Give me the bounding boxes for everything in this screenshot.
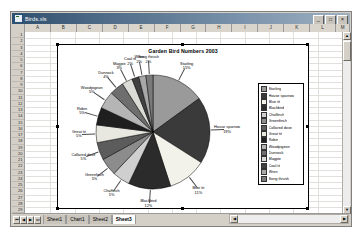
slice-label-value: 4%: [98, 75, 113, 80]
column-header-a[interactable]: A: [25, 24, 51, 32]
slice-label-value: 5%: [85, 177, 104, 182]
legend-label: Coal tit: [269, 164, 281, 168]
column-header-m[interactable]: M: [336, 24, 350, 32]
legend-swatch: [261, 137, 267, 143]
slice-label-starling: Starling15%: [180, 62, 193, 71]
column-header-f[interactable]: F: [155, 24, 181, 32]
sheet-tab-sheet2[interactable]: Sheet2: [89, 215, 112, 224]
legend-swatch: [261, 156, 267, 162]
slice-label-great-tit: Great tit5%: [72, 130, 86, 139]
first-sheet-button[interactable]: ⏮: [13, 216, 20, 224]
close-button[interactable]: ×: [337, 15, 348, 25]
legend-swatch: [261, 176, 267, 182]
legend-swatch: [261, 86, 267, 92]
column-header-e[interactable]: E: [129, 24, 155, 32]
legend-label: Robin: [269, 138, 279, 142]
legend-label: Greenfinch: [269, 119, 288, 123]
resize-handle-sw[interactable]: [56, 207, 59, 210]
window-title: Birds.xls: [25, 16, 47, 22]
legend-swatch: [261, 144, 267, 150]
slice-label-woodpigeon: Woodpigeon5%: [81, 86, 103, 95]
legend-swatch: [261, 150, 267, 156]
resize-handle-s[interactable]: [181, 207, 184, 210]
slice-label-value: 12%: [140, 204, 156, 209]
sheet-tab-sheet3[interactable]: Sheet3: [112, 215, 136, 224]
legend-swatch: [261, 105, 267, 111]
sheet-tab-chart1[interactable]: Chart1: [66, 215, 88, 224]
window-title-bar[interactable]: Birds.xls _ □ ×: [12, 13, 350, 24]
chart-legend[interactable]: StarlingHouse sparrowBlue titBlackbirdCh…: [258, 83, 304, 185]
legend-label: Magpie: [269, 157, 281, 161]
legend-swatch: [261, 125, 267, 131]
chart-title: Garden Bird Numbers 2003: [58, 48, 308, 54]
legend-label: Woodpigeon: [269, 145, 290, 149]
legend-label: Great tit: [269, 132, 283, 136]
legend-label: Blackbird: [269, 106, 285, 110]
resize-handle-w[interactable]: [56, 125, 59, 128]
legend-swatch: [261, 169, 267, 175]
legend-swatch: [261, 131, 267, 137]
column-header-i[interactable]: I: [232, 24, 258, 32]
grid-column-line: [50, 32, 51, 214]
column-header-l[interactable]: L: [310, 24, 336, 32]
column-header-c[interactable]: C: [77, 24, 103, 32]
column-header-b[interactable]: B: [51, 24, 77, 32]
column-header-h[interactable]: H: [206, 24, 232, 32]
vertical-scrollbar[interactable]: ▲ ▼: [342, 32, 350, 214]
screenshot-root: Birds.xls _ □ × A B C D E F G H I J K L …: [0, 0, 359, 243]
slice-label-value: 11%: [192, 191, 204, 196]
excel-workbook-icon: [14, 14, 23, 23]
column-header-g[interactable]: G: [181, 24, 207, 32]
minimize-button[interactable]: _: [313, 15, 324, 25]
slice-label-greenfinch: Greenfinch5%: [85, 173, 104, 182]
window-controls: _ □ ×: [313, 15, 348, 25]
scroll-right-arrow-icon[interactable]: ▶: [340, 215, 348, 223]
legend-label: Wren: [269, 170, 278, 174]
legend-label: Collared dove: [269, 126, 292, 130]
restore-button[interactable]: □: [325, 15, 336, 25]
excel-window: Birds.xls _ □ × A B C D E F G H I J K L …: [10, 11, 352, 227]
embedded-chart-object[interactable]: Garden Bird Numbers 2003 Starling15%Hous…: [57, 44, 309, 209]
horizontal-scroll-track[interactable]: [238, 215, 340, 223]
column-header-k[interactable]: K: [284, 24, 310, 32]
legend-label: Blue tit: [269, 100, 281, 104]
scroll-left-arrow-icon[interactable]: ◀: [230, 215, 238, 223]
horizontal-scrollbar[interactable]: ◀ ▶: [229, 214, 349, 224]
pie-plot-area[interactable]: [94, 73, 212, 191]
resize-handle-ne[interactable]: [306, 43, 309, 46]
slice-label-value: 5%: [81, 90, 103, 95]
legend-label: Song thrush: [269, 177, 289, 181]
select-all-corner[interactable]: [12, 24, 25, 32]
legend-swatch: [261, 93, 267, 99]
column-header-d[interactable]: D: [103, 24, 129, 32]
grid-row-line: [26, 38, 342, 39]
slice-label-chaffinch: Chaffinch5%: [103, 189, 119, 198]
legend-label: Dunnock: [269, 151, 284, 155]
legend-swatch: [261, 99, 267, 105]
legend-rows: StarlingHouse sparrowBlue titBlackbirdCh…: [261, 86, 302, 182]
slice-label-value: 15%: [180, 66, 193, 71]
slice-label-dunnock: Dunnock4%: [98, 71, 113, 80]
legend-label: Chaffinch: [269, 113, 285, 117]
slice-label-value: 5%: [72, 134, 86, 139]
column-header-j[interactable]: J: [258, 24, 284, 32]
resize-handle-n[interactable]: [181, 43, 184, 46]
prev-sheet-button[interactable]: ◀: [20, 216, 27, 224]
next-sheet-button[interactable]: ▶: [27, 216, 34, 224]
vertical-scroll-thumb[interactable]: [343, 41, 351, 61]
resize-handle-nw[interactable]: [56, 43, 59, 46]
scroll-up-arrow-icon[interactable]: ▲: [343, 32, 351, 40]
legend-item-song-thrush[interactable]: Song thrush: [261, 175, 302, 181]
resize-handle-se[interactable]: [306, 207, 309, 210]
slice-label-blue-tit: Blue tit11%: [192, 186, 204, 195]
sheet-tab-bar: ⏮ ◀ ▶ ⏭ Sheet1 Chart1 Sheet2 Sheet3 ◀ ▶: [12, 213, 350, 225]
sheet-tabs: Sheet1 Chart1 Sheet2 Sheet3: [43, 215, 136, 224]
slice-label-value: 5%: [71, 157, 95, 162]
last-sheet-button[interactable]: ⏭: [34, 216, 41, 224]
grid-column-line: [318, 32, 319, 214]
legend-label: House sparrow: [269, 94, 295, 98]
slice-label-value: 19%: [214, 130, 240, 135]
sheet-tab-sheet1[interactable]: Sheet1: [43, 215, 66, 224]
resize-handle-e[interactable]: [306, 125, 309, 128]
legend-label: Starling: [269, 87, 282, 91]
